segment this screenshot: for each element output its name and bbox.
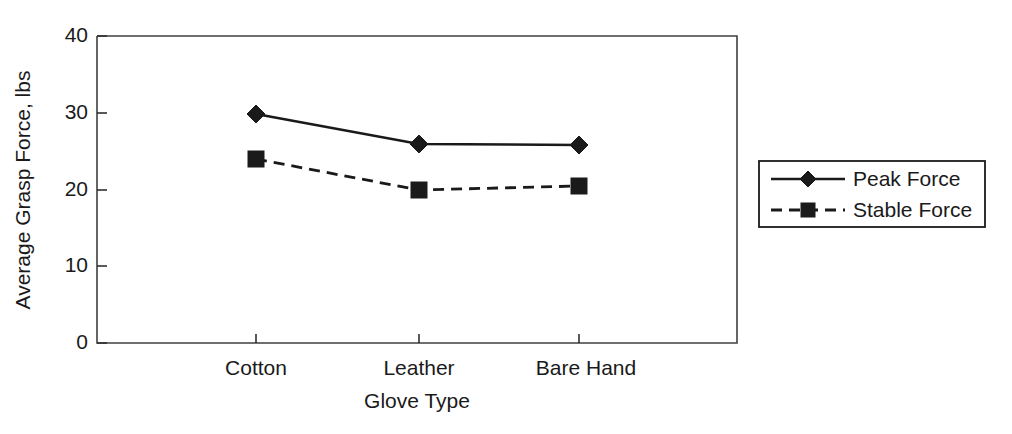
- square-marker-icon: [801, 203, 815, 217]
- x-category-label-leather: Leather: [383, 356, 454, 379]
- x-axis-category-labels: Cotton Leather Bare Hand: [225, 356, 636, 379]
- data-point-peak-bare-hand: [570, 136, 588, 154]
- x-category-label-cotton: Cotton: [225, 356, 287, 379]
- x-axis-title: Glove Type: [364, 389, 470, 412]
- y-axis-ticks: [97, 36, 107, 343]
- y-tick-label-20: 20: [65, 177, 88, 200]
- y-tick-label-10: 10: [65, 253, 88, 276]
- y-tick-label-30: 30: [65, 100, 88, 123]
- legend-label-peak-force: Peak Force: [853, 167, 960, 190]
- legend-label-stable-force: Stable Force: [853, 198, 972, 221]
- line-chart: 40 30 20 10 0 Cotton Leather Bare Hand G…: [0, 0, 1012, 434]
- y-tick-label-40: 40: [65, 23, 88, 46]
- figure-container: 40 30 20 10 0 Cotton Leather Bare Hand G…: [0, 0, 1012, 434]
- data-point-stable-cotton: [248, 151, 264, 167]
- data-point-stable-leather: [411, 182, 427, 198]
- y-axis-title: Average Grasp Force, lbs: [11, 71, 34, 310]
- data-point-peak-leather: [410, 135, 428, 153]
- series-stable-force: [248, 151, 587, 198]
- data-point-stable-bare-hand: [571, 178, 587, 194]
- y-axis-tick-labels: 40 30 20 10 0: [65, 23, 88, 353]
- x-axis-ticks: [256, 334, 579, 343]
- y-tick-label-0: 0: [76, 330, 88, 353]
- data-point-peak-cotton: [247, 105, 265, 123]
- series-peak-force: [247, 105, 588, 154]
- x-category-label-bare-hand: Bare Hand: [536, 356, 636, 379]
- chart-legend: Peak Force Stable Force: [759, 161, 985, 227]
